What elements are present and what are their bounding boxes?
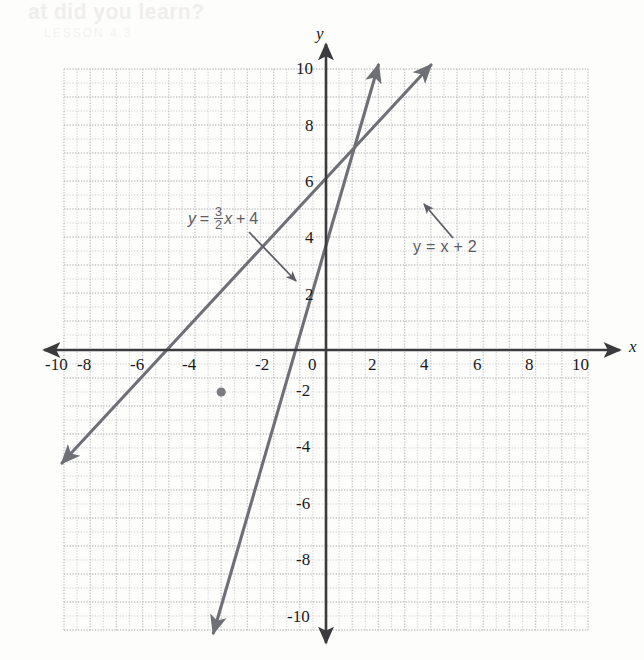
fraction-three-halves: 32 [214, 206, 223, 232]
y-tick-label-neg6: -6 [296, 494, 310, 514]
axes [44, 44, 620, 643]
x-tick-label-4: 4 [420, 355, 429, 375]
y-axis-name-label: y [316, 24, 324, 44]
leader-line-for-three-halves-equation [249, 232, 296, 281]
equation-variable-x: x [224, 210, 232, 227]
equation-label-three-halves: y = 32x + 4 [188, 206, 258, 232]
origin-label: 0 [308, 355, 317, 375]
y-tick-label-6: 6 [305, 172, 314, 192]
x-axis-name-label: x [629, 337, 637, 357]
x-tick-label-neg4: -4 [182, 355, 196, 375]
equation-constant-4: 4 [249, 210, 258, 227]
intersection-point-dot [217, 387, 226, 396]
y-tick-label-neg10: -10 [287, 607, 310, 627]
y-tick-label-4: 4 [305, 228, 314, 248]
y-tick-label-2: 2 [305, 285, 314, 305]
x-tick-label-neg10: -10 [45, 355, 68, 375]
x-tick-label-2: 2 [368, 355, 377, 375]
x-tick-label-6: 6 [473, 355, 482, 375]
x-tick-label-neg8: -8 [77, 355, 91, 375]
equation-label-x-plus-2: y = x + 2 [413, 238, 477, 256]
x-tick-label-neg6: -6 [130, 355, 144, 375]
x-tick-label-8: 8 [525, 355, 534, 375]
coordinate-plane-figure [0, 0, 644, 660]
y-tick-label-neg2: -2 [296, 381, 310, 401]
fraction-denominator: 2 [214, 218, 223, 231]
y-tick-label-8: 8 [305, 116, 314, 136]
x-tick-label-neg2: -2 [255, 355, 269, 375]
fraction-numerator: 3 [214, 206, 223, 218]
y-tick-label-neg8: -8 [296, 550, 310, 570]
x-tick-label-10: 10 [572, 355, 589, 375]
y-tick-label-10: 10 [296, 59, 313, 79]
y-tick-label-neg4: -4 [296, 437, 310, 457]
equation-plus-sign: + [236, 210, 246, 227]
